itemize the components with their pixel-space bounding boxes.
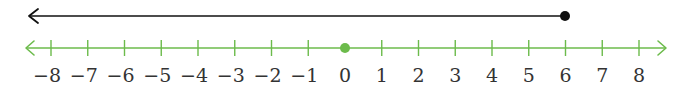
tick-label: 3 xyxy=(449,64,461,86)
tick-label: −8 xyxy=(33,64,61,86)
tick-label: 6 xyxy=(559,64,571,86)
tick-label: −5 xyxy=(143,64,171,86)
tick-label: 7 xyxy=(596,64,608,86)
tick-label: −1 xyxy=(290,64,318,86)
tick-label: −2 xyxy=(253,64,281,86)
tick-label: −6 xyxy=(106,64,134,86)
tick-labels: −8−7−6−5−4−3−2−1012345678 xyxy=(33,64,645,86)
tick-label: 8 xyxy=(633,64,645,86)
closed-endpoint-dot xyxy=(560,11,570,21)
tick-label: 4 xyxy=(486,64,498,86)
tick-label: 1 xyxy=(376,64,388,86)
marked-point-dot xyxy=(340,43,350,53)
tick-label: 5 xyxy=(523,64,535,86)
tick-label: −7 xyxy=(70,64,98,86)
number-line-figure: −8−7−6−5−4−3−2−1012345678 xyxy=(0,0,683,93)
tick-label: −3 xyxy=(217,64,245,86)
inequality-ray xyxy=(29,9,570,23)
tick-label: 2 xyxy=(412,64,424,86)
number-line-axis xyxy=(26,40,666,56)
tick-label: 0 xyxy=(339,64,351,86)
tick-label: −4 xyxy=(180,64,208,86)
